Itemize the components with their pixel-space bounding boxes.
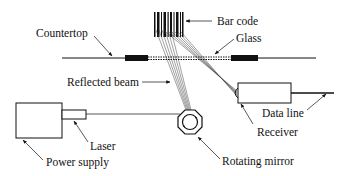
- svg-text:Data line: Data line: [262, 107, 304, 119]
- svg-text:Glass: Glass: [236, 32, 262, 44]
- svg-text:Reflected beam: Reflected beam: [67, 76, 139, 88]
- svg-text:Laser: Laser: [90, 140, 116, 152]
- laser: [62, 110, 86, 119]
- svg-text:Countertop: Countertop: [36, 27, 88, 40]
- svg-text:Rotating mirror: Rotating mirror: [222, 155, 294, 168]
- label-glass: Glass: [215, 32, 262, 54]
- label-rotating-mirror: Rotating mirror: [198, 137, 294, 168]
- label-laser: Laser: [74, 121, 116, 152]
- countertop: [62, 55, 316, 61]
- label-reflected-beam: Reflected beam: [67, 76, 170, 88]
- svg-text:Receiver: Receiver: [257, 126, 298, 138]
- label-countertop: Countertop: [36, 27, 112, 56]
- power-supply: [16, 103, 62, 138]
- receiver: [235, 83, 291, 103]
- svg-text:Bar code: Bar code: [217, 15, 258, 27]
- glass: [148, 57, 231, 60]
- label-bar-code: Bar code: [186, 15, 258, 27]
- rotating-mirror: [178, 110, 202, 134]
- laser-beam-fan: [156, 30, 237, 110]
- bar-code-scanner-diagram: Bar code Glass Countertop Reflected beam…: [0, 0, 344, 176]
- svg-text:Power supply: Power supply: [46, 156, 109, 169]
